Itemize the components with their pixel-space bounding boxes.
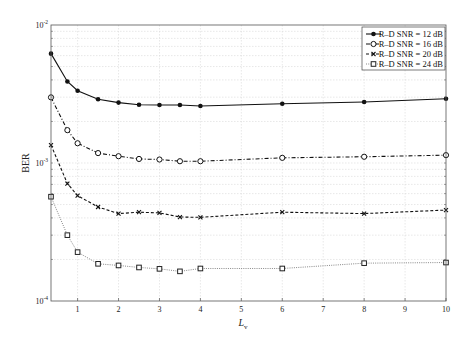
open-square-marker [198,266,203,271]
open-circle-marker [198,159,203,164]
series-4 [49,194,449,273]
open-circle-marker [116,154,121,159]
legend: R–D SNR = 12 dBR–D SNR = 16 dBR–D SNR = … [362,27,445,70]
filled-circle-marker [96,97,101,102]
open-circle-marker [75,141,80,146]
open-square-marker [137,265,142,270]
filled-circle-marker [280,101,285,106]
filled-circle-marker [178,103,183,108]
open-square-marker [65,233,70,238]
ber-chart: 1234567891010-210-310-4 BER Lv R–D SNR =… [0,0,469,342]
series-line [51,145,446,217]
x-tick-label: 6 [280,305,284,314]
x-axis-label: Lv [237,317,248,331]
x-tick-label: 1 [76,305,80,314]
open-square-marker [178,269,183,274]
open-square-marker [371,62,376,67]
x-tick-label: 9 [403,305,407,314]
legend-label: R–D SNR = 12 dB [379,29,444,39]
filled-circle-marker [362,100,367,105]
open-circle-marker [177,159,182,164]
open-circle-marker [65,128,70,133]
open-square-marker [362,261,367,266]
filled-circle-marker [137,103,142,108]
filled-circle-marker [75,88,80,93]
filled-circle-marker [157,103,162,108]
open-circle-marker [95,150,100,155]
y-tick-label: 10-4 [35,295,48,306]
open-square-marker [96,262,101,267]
open-circle-marker [371,41,376,46]
filled-circle-marker [116,100,121,105]
x-tick-label: 5 [239,305,243,314]
filled-circle-marker [198,104,203,109]
y-axis-label: BER [20,153,31,173]
filled-circle-marker [65,79,70,84]
y-tick-label: 10-2 [35,19,48,30]
x-tick-label: 7 [321,305,325,314]
x-tick-label: 4 [198,305,202,314]
filled-circle-marker [371,32,376,37]
open-circle-marker [157,157,162,162]
series-3 [49,143,448,219]
x-tick-label: 10 [442,305,450,314]
open-circle-marker [280,155,285,160]
x-tick-label: 8 [362,305,366,314]
x-tick-label: 2 [117,305,121,314]
legend-label: R–D SNR = 24 dB [379,59,444,69]
open-circle-marker [136,156,141,161]
open-square-marker [75,250,80,255]
open-circle-marker [362,154,367,159]
legend-label: R–D SNR = 16 dB [379,39,444,49]
x-tick-label: 3 [157,305,161,314]
open-square-marker [116,263,121,268]
series-line [51,97,446,161]
series-line [51,197,446,272]
open-square-marker [280,266,285,271]
open-square-marker [157,267,162,272]
x-axis-label-subscript: v [244,323,248,331]
y-tick-label: 10-3 [35,157,48,168]
legend-label: R–D SNR = 20 dB [379,49,444,59]
chart-canvas: 1234567891010-210-310-4 BER Lv R–D SNR =… [0,0,469,342]
data-series [48,51,448,273]
